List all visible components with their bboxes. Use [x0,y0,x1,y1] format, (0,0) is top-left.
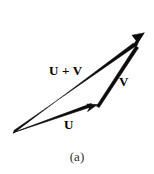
vector-u-label: U [64,118,74,131]
vector-u-shaft [14,104,93,133]
vector-sum-shaft [13,43,135,133]
figure-caption: (a) [0,150,154,163]
vector-u-group [14,104,98,133]
vector-v-label: V [119,75,129,88]
vector-addition-figure: U + V V U (a) [0,0,154,174]
vector-sum-label: U + V [49,64,82,77]
vector-diagram-canvas [0,0,154,174]
